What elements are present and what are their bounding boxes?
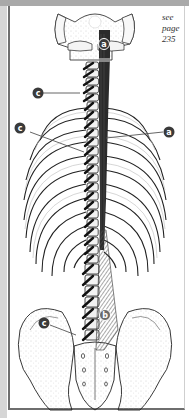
muscle-b	[96, 230, 118, 350]
muscle-a	[99, 30, 110, 250]
label-c-neck: c	[33, 88, 44, 99]
cross-reference-line-2: page	[162, 23, 188, 34]
label-a-top-text: a	[101, 40, 106, 49]
label-b-lumbar: b	[100, 310, 111, 321]
label-c-lumbar: c	[39, 318, 50, 329]
label-c-thorax: c	[15, 123, 26, 134]
cross-reference: see page 235	[162, 12, 188, 45]
skull-base	[55, 14, 135, 60]
label-b-lumbar-text: b	[102, 311, 108, 320]
label-c-thorax-text: c	[18, 124, 23, 133]
anatomy-illustration: a c c a c b	[0, 0, 189, 418]
label-a-top: a	[99, 39, 110, 50]
label-c-lumbar-text: c	[42, 319, 47, 328]
cross-reference-line-3: 235	[162, 34, 188, 45]
label-c-neck-text: c	[36, 89, 41, 98]
cross-reference-line-1: see	[162, 12, 188, 23]
label-a-thorax: a	[164, 127, 175, 138]
label-a-thorax-text: a	[166, 128, 171, 137]
